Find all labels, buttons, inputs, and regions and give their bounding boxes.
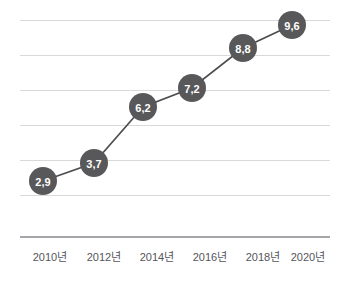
- x-tick-label: 2016년: [193, 251, 227, 263]
- x-tick-label: 2018년: [246, 251, 280, 263]
- marker-value-label: 2,9: [35, 176, 50, 188]
- data-point-marker[interactable]: 8,8: [229, 34, 257, 62]
- x-tick-label: 2010년: [33, 251, 67, 263]
- data-point-marker[interactable]: 3,7: [80, 149, 108, 177]
- x-tick-label: 2014년: [140, 251, 174, 263]
- marker-value-label: 6,2: [135, 102, 150, 114]
- marker-value-label: 7,2: [184, 83, 199, 95]
- data-point-marker[interactable]: 6,2: [129, 93, 157, 121]
- data-point-marker[interactable]: 9,6: [278, 11, 306, 39]
- x-tick-label: 2020년: [291, 251, 325, 263]
- marker-value-label: 8,8: [235, 43, 250, 55]
- x-tick-label: 2012년: [87, 251, 121, 263]
- chart-plot-area: 2,9 3,7 6,2 7,2 8,8 9,6 2010년 2012년 2014…: [0, 0, 343, 283]
- data-point-marker[interactable]: 7,2: [178, 74, 206, 102]
- x-axis-tick-labels: 2010년 2012년 2014년 2016년 2018년 2020년: [33, 251, 325, 263]
- marker-value-label: 3,7: [86, 158, 101, 170]
- data-point-marker[interactable]: 2,9: [29, 167, 57, 195]
- marker-value-label: 9,6: [284, 20, 299, 32]
- line-chart-figure: 2,9 3,7 6,2 7,2 8,8 9,6 2010년 2012년 2014…: [0, 0, 343, 283]
- gridlines-group: [20, 21, 330, 196]
